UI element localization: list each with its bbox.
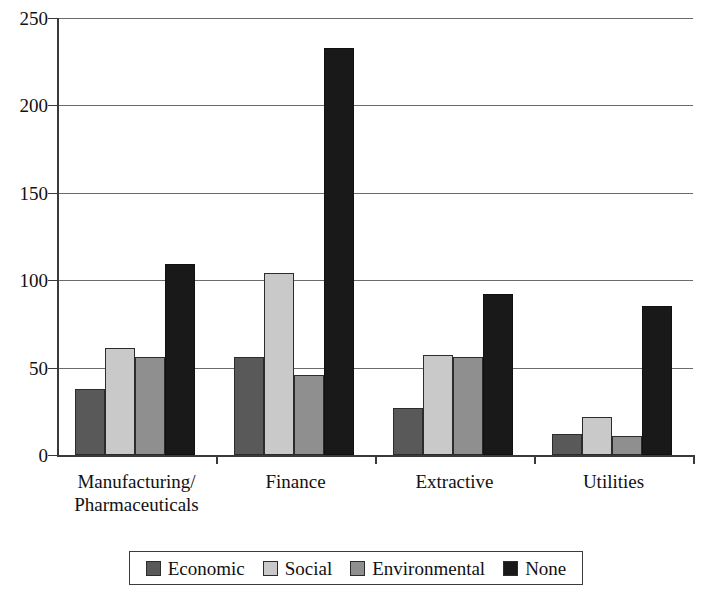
x-axis-label-extractive: Extractive [375, 470, 534, 493]
x-axis-label-utilities: Utilities [534, 470, 693, 493]
gridline [57, 193, 693, 194]
y-axis-tick-label: 150 [0, 183, 48, 205]
bar-chart: 050100150200250 Manufacturing/Pharmaceut… [0, 0, 705, 601]
y-axis-tick-label: 100 [0, 270, 48, 292]
legend-swatch-social [263, 561, 278, 576]
gridline [57, 280, 693, 281]
bar-finance-social[interactable] [264, 273, 294, 455]
y-axis-tick-label: 50 [0, 358, 48, 380]
y-axis-line [57, 18, 59, 456]
legend-item-environmental: Environmental [350, 559, 485, 578]
bar-utilities-social[interactable] [582, 417, 612, 455]
legend-swatch-environmental [350, 561, 365, 576]
bar-manufacturing-pharmaceuticals-social[interactable] [105, 348, 135, 455]
y-axis-tick-label: 250 [0, 8, 48, 30]
bar-utilities-economic[interactable] [552, 434, 582, 455]
x-axis-tick [534, 455, 536, 464]
legend-swatch-economic [146, 561, 161, 576]
plot-area [57, 18, 693, 455]
bar-extractive-economic[interactable] [393, 408, 423, 455]
y-axis-tick [48, 105, 57, 106]
x-axis-label-finance: Finance [216, 470, 375, 493]
bar-utilities-environmental[interactable] [612, 436, 642, 455]
y-axis-tick [48, 368, 57, 369]
x-axis-label-manufacturing: Manufacturing/Pharmaceuticals [57, 470, 216, 516]
gridline [57, 18, 693, 19]
bar-utilities-none[interactable] [642, 306, 672, 455]
y-axis-tick [48, 18, 57, 19]
x-axis-tick [216, 455, 218, 464]
gridline [57, 105, 693, 106]
bar-extractive-none[interactable] [483, 294, 513, 455]
bar-finance-economic[interactable] [234, 357, 264, 455]
legend-label-environmental: Environmental [372, 559, 485, 578]
legend-label-none: None [525, 559, 566, 578]
bar-manufacturing-pharmaceuticals-economic[interactable] [75, 389, 105, 455]
legend-label-economic: Economic [168, 559, 245, 578]
bar-finance-environmental[interactable] [294, 375, 324, 455]
legend-item-social: Social [263, 559, 333, 578]
bar-extractive-social[interactable] [423, 355, 453, 455]
bar-manufacturing-pharmaceuticals-none[interactable] [165, 264, 195, 455]
legend-label-social: Social [285, 559, 333, 578]
x-axis-tick [693, 455, 695, 464]
legend-item-none: None [503, 559, 566, 578]
bar-manufacturing-pharmaceuticals-environmental[interactable] [135, 357, 165, 455]
y-axis-tick [48, 455, 57, 456]
x-axis-tick [375, 455, 377, 464]
y-axis-tick [48, 193, 57, 194]
chart-legend: Economic Social Environmental None [129, 551, 583, 585]
bar-finance-none[interactable] [324, 48, 354, 455]
y-axis-tick-label: 0 [0, 445, 48, 467]
y-axis-tick [48, 280, 57, 281]
legend-swatch-none [503, 561, 518, 576]
y-axis-tick-label: 200 [0, 95, 48, 117]
legend-item-economic: Economic [146, 559, 245, 578]
bar-extractive-environmental[interactable] [453, 357, 483, 455]
